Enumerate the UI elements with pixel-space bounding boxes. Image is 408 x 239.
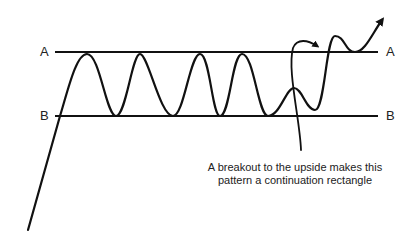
annotation-pointer-arrow <box>291 41 317 150</box>
line-b-label-right: B <box>386 109 395 122</box>
diagram-graphic <box>0 0 408 239</box>
annotation-line-2: pattern a continuation rectangle <box>190 174 400 187</box>
line-b-label-left: B <box>40 109 49 122</box>
annotation-line-1: A breakout to the upside makes this <box>190 161 400 174</box>
continuation-rectangle-diagram: A A B B A breakout to the upside makes t… <box>0 0 408 239</box>
line-a-label-right: A <box>386 45 395 58</box>
annotation-caption: A breakout to the upside makes this patt… <box>190 161 400 187</box>
line-a-label-left: A <box>40 45 49 58</box>
